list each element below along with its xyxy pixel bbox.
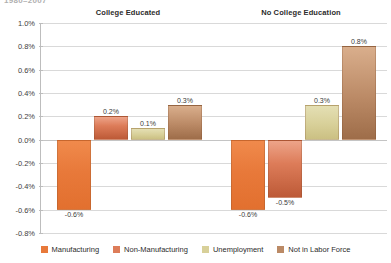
- y-axis-tick: [39, 46, 43, 47]
- y-axis-label: 1.0%: [18, 19, 35, 28]
- group-label-college-educated: College Educated: [44, 8, 212, 17]
- bar-college-educated-unemployment[interactable]: 0.1%: [131, 128, 165, 140]
- legend-swatch-icon: [41, 246, 48, 253]
- bar-fill: [268, 140, 302, 198]
- bar-college-educated-non-manufacturing[interactable]: 0.2%: [94, 116, 128, 139]
- gridline: [40, 210, 387, 211]
- gridline: [40, 140, 387, 141]
- y-axis-tick: [39, 210, 43, 211]
- legend-swatch-icon: [277, 246, 284, 253]
- y-axis-label: 0.2%: [18, 112, 35, 121]
- legend-label: Not in Labor Force: [288, 245, 350, 254]
- bar-no-college-education-not-in-labor-force[interactable]: 0.8%: [342, 46, 376, 139]
- bar-no-college-education-manufacturing[interactable]: -0.6%: [231, 140, 265, 210]
- bar-fill: [231, 140, 265, 210]
- legend-swatch-icon: [202, 246, 209, 253]
- legend-item-non-manufacturing[interactable]: Non-Manufacturing: [113, 245, 188, 254]
- bar-value-label: 0.8%: [351, 38, 367, 45]
- bar-college-educated-not-in-labor-force[interactable]: 0.3%: [168, 105, 202, 140]
- y-axis-line: [40, 23, 41, 233]
- y-axis-label: -0.8%: [15, 229, 35, 238]
- y-axis-tick: [39, 140, 43, 141]
- y-axis-tick: [39, 70, 43, 71]
- legend-label: Unemployment: [213, 245, 263, 254]
- bar-no-college-education-non-manufacturing[interactable]: -0.5%: [268, 140, 302, 198]
- gridline: [40, 93, 387, 94]
- legend-item-not-in-labor-force[interactable]: Not in Labor Force: [277, 245, 350, 254]
- chart-top-title: 1980–2007: [4, 0, 47, 5]
- legend-item-manufacturing[interactable]: Manufacturing: [41, 245, 100, 254]
- grouped-bar-chart: 1980–2007 College Educated No College Ed…: [0, 0, 391, 263]
- y-axis-label: 0.0%: [18, 135, 35, 144]
- y-axis-label: -0.4%: [15, 182, 35, 191]
- bar-college-educated-manufacturing[interactable]: -0.6%: [57, 140, 91, 210]
- gridline: [40, 233, 387, 234]
- group-label-no-college-education: No College Education: [215, 8, 387, 17]
- y-axis-tick: [39, 116, 43, 117]
- bar-no-college-education-unemployment[interactable]: 0.3%: [305, 105, 339, 140]
- y-axis-label: -0.6%: [15, 205, 35, 214]
- bar-fill: [305, 105, 339, 140]
- y-axis-label: 0.4%: [18, 89, 35, 98]
- gridline: [40, 186, 387, 187]
- bar-fill: [57, 140, 91, 210]
- y-axis-tick: [39, 93, 43, 94]
- bar-value-label: 0.2%: [103, 108, 119, 115]
- legend-item-unemployment[interactable]: Unemployment: [202, 245, 263, 254]
- y-axis-label: 0.8%: [18, 42, 35, 51]
- gridline: [40, 163, 387, 164]
- bar-fill: [94, 116, 128, 139]
- chart-legend: ManufacturingNon-ManufacturingUnemployme…: [0, 240, 391, 258]
- legend-swatch-icon: [113, 246, 120, 253]
- bar-value-label: 0.3%: [177, 97, 193, 104]
- bar-value-label: -0.6%: [239, 211, 257, 218]
- gridline: [40, 70, 387, 71]
- bar-fill: [168, 105, 202, 140]
- y-axis-tick: [39, 23, 43, 24]
- bar-value-label: -0.5%: [276, 199, 294, 206]
- y-axis-tick: [39, 163, 43, 164]
- y-axis-label: -0.2%: [15, 159, 35, 168]
- y-axis-label: 0.6%: [18, 65, 35, 74]
- legend-label: Non-Manufacturing: [124, 245, 188, 254]
- gridline: [40, 46, 387, 47]
- bar-value-label: -0.6%: [65, 211, 83, 218]
- plot-area: 1.0%0.8%0.6%0.4%0.2%0.0%-0.2%-0.4%-0.6%-…: [40, 23, 387, 233]
- bar-fill: [342, 46, 376, 139]
- bar-fill: [131, 128, 165, 140]
- bar-value-label: 0.3%: [314, 97, 330, 104]
- bar-value-label: 0.1%: [140, 120, 156, 127]
- y-axis-tick: [39, 233, 43, 234]
- legend-label: Manufacturing: [52, 245, 100, 254]
- y-axis-tick: [39, 186, 43, 187]
- gridline: [40, 23, 387, 24]
